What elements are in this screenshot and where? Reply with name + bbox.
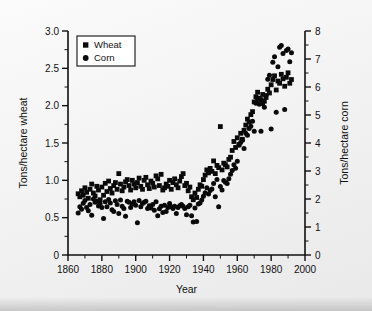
data-point-corn xyxy=(245,133,250,138)
data-point-corn xyxy=(240,138,245,143)
data-point-corn xyxy=(108,200,113,205)
legend-label-corn: Corn xyxy=(94,52,115,63)
data-point-wheat xyxy=(137,176,142,181)
data-point-corn xyxy=(286,46,291,51)
data-point-corn xyxy=(269,127,274,132)
data-point-corn xyxy=(216,204,221,209)
y2-tick-label: 5 xyxy=(315,110,321,121)
data-point-wheat xyxy=(279,72,284,77)
chart-svg: 18601880190019201940196019802000 00.51.0… xyxy=(0,0,372,311)
y2-tick-label: 8 xyxy=(315,26,321,37)
y2-tick-label: 0 xyxy=(315,250,321,261)
data-point-corn xyxy=(115,202,120,207)
y-axis-right-ticks: 012345678 xyxy=(305,26,321,261)
data-point-corn xyxy=(211,181,216,186)
x-tick-label: 1980 xyxy=(260,264,283,275)
data-point-corn xyxy=(79,207,84,212)
y2-tick-label: 7 xyxy=(315,54,321,65)
data-point-wheat xyxy=(157,183,162,188)
data-point-corn xyxy=(152,208,157,213)
data-point-corn xyxy=(264,93,269,98)
data-point-corn xyxy=(262,105,267,110)
y2-tick-label: 2 xyxy=(315,194,321,205)
data-point-wheat xyxy=(181,171,186,176)
data-point-wheat xyxy=(274,88,279,93)
data-point-wheat xyxy=(147,186,152,191)
data-point-wheat xyxy=(155,176,160,181)
data-point-corn xyxy=(104,204,109,209)
data-point-corn xyxy=(226,176,231,181)
data-point-corn xyxy=(209,186,214,191)
data-point-wheat xyxy=(83,185,88,190)
data-point-corn xyxy=(220,188,225,193)
data-point-corn xyxy=(111,209,116,214)
legend-marker-circle-icon xyxy=(83,55,89,61)
data-point-wheat xyxy=(89,182,94,187)
data-point-wheat xyxy=(201,177,206,182)
x-tick-label: 1960 xyxy=(226,264,249,275)
y-tick-label: 1.5 xyxy=(45,138,59,149)
data-point-corn xyxy=(123,214,128,219)
data-point-wheat xyxy=(211,159,216,164)
data-point-wheat xyxy=(177,179,182,184)
data-point-corn xyxy=(154,199,159,204)
data-point-wheat xyxy=(225,164,230,169)
chart-legend[interactable]: WheatCorn xyxy=(77,36,135,66)
y2-tick-label: 3 xyxy=(315,166,321,177)
data-point-wheat xyxy=(159,172,164,177)
data-point-wheat xyxy=(115,187,120,192)
data-point-corn xyxy=(118,198,123,203)
data-point-corn xyxy=(101,216,106,221)
data-point-corn xyxy=(187,203,192,208)
data-point-wheat xyxy=(133,185,138,190)
data-point-wheat xyxy=(235,135,240,140)
data-point-wheat xyxy=(121,185,126,190)
data-point-wheat xyxy=(169,187,174,192)
x-axis-ticks: 18601880190019201940196019802000 xyxy=(57,255,317,275)
x-axis-label: Year xyxy=(176,283,198,295)
data-point-wheat xyxy=(127,183,132,188)
data-point-wheat xyxy=(176,185,181,190)
data-point-corn xyxy=(258,129,263,134)
data-point-wheat xyxy=(228,155,233,160)
data-point-wheat xyxy=(255,90,260,95)
data-point-corn xyxy=(255,97,260,102)
x-tick-label: 1900 xyxy=(125,264,148,275)
data-point-wheat xyxy=(172,176,177,181)
legend-label-wheat: Wheat xyxy=(94,39,122,50)
data-point-corn xyxy=(250,119,255,124)
data-point-corn xyxy=(82,198,87,203)
y-tick-label: 0 xyxy=(53,250,59,261)
data-point-wheat xyxy=(213,171,218,176)
data-point-corn xyxy=(121,206,126,211)
data-point-corn xyxy=(233,166,238,171)
data-point-corn xyxy=(174,211,179,216)
data-point-corn xyxy=(194,219,199,224)
data-point-corn xyxy=(289,50,294,55)
data-point-corn xyxy=(155,213,160,218)
data-point-corn xyxy=(272,54,277,59)
data-point-wheat xyxy=(110,191,115,196)
data-point-wheat xyxy=(199,184,204,189)
data-point-corn xyxy=(89,213,94,218)
data-point-corn xyxy=(133,203,138,208)
data-point-corn xyxy=(184,212,189,217)
data-point-corn xyxy=(143,199,148,204)
data-point-wheat xyxy=(125,177,130,182)
data-point-wheat xyxy=(220,167,225,172)
data-point-corn xyxy=(214,177,219,182)
y-axis-left-ticks: 00.51.01.52.02.53.0 xyxy=(45,26,68,261)
data-point-corn xyxy=(287,59,292,64)
data-point-corn xyxy=(279,43,284,48)
data-points xyxy=(76,43,294,225)
scatter-chart: 18601880190019201940196019802000 00.51.0… xyxy=(0,0,372,311)
data-point-corn xyxy=(270,60,275,65)
data-point-corn xyxy=(252,129,257,134)
data-point-wheat xyxy=(128,188,133,193)
data-point-wheat xyxy=(269,82,274,87)
y-tick-label: 2.5 xyxy=(45,63,59,74)
data-point-wheat xyxy=(289,77,294,82)
legend-marker-square-icon xyxy=(83,42,88,47)
data-point-corn xyxy=(213,194,218,199)
data-point-corn xyxy=(88,202,93,207)
